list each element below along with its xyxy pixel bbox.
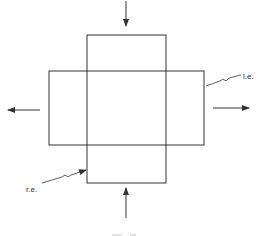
right-edge-leader bbox=[42, 170, 86, 183]
left-edge-label: l.e. bbox=[243, 72, 254, 81]
figure-canvas: l.e. r.e. bbox=[0, 0, 261, 236]
right-edge-label: r.e. bbox=[26, 185, 37, 194]
vertical-rectangle bbox=[87, 35, 166, 183]
horizontal-rectangle bbox=[49, 71, 204, 145]
left-edge-leader bbox=[206, 75, 241, 86]
